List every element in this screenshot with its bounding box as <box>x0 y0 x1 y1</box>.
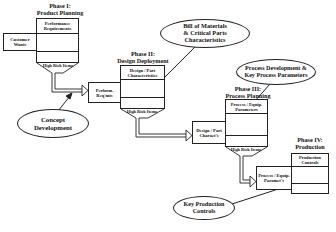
callout-bom-line3: Characteristics <box>183 37 227 44</box>
phase-4-matrix: Production Controls <box>291 153 329 194</box>
phase-3-matrix-footer <box>226 135 267 146</box>
callout-process-line2: Key Process Parameters <box>244 72 307 79</box>
phase-1-matrix: Performance Requirements <box>36 18 79 63</box>
phase-1-matrix-footer <box>37 51 78 62</box>
callout-key-production-controls: Key Production Controls <box>173 196 235 220</box>
phase-4-matrix-footer <box>292 183 328 193</box>
phase-1-matrix-header: Performance Requirements <box>37 19 78 34</box>
callout-concept-development: Concept Development <box>17 109 89 138</box>
phase-3-title: Phase III: Process Planning <box>218 86 278 99</box>
callout-keyprod-line1: Key Production <box>183 201 224 208</box>
phase-2-matrix-footer <box>121 97 164 108</box>
phase-4-side-input: Process / Equip. Paramet's <box>256 166 292 190</box>
phase-2-side-input: Perform. Req'mts <box>88 82 121 103</box>
phase-1-output-label: High Risk Items <box>42 64 74 69</box>
phase-3-matrix-header: Process / Equip. Parameters <box>226 100 267 114</box>
callout-process-line1: Process Development & <box>244 65 307 72</box>
phase-3-matrix: Process / Equip. Parameters <box>225 99 268 147</box>
phase-4-matrix-header: Production Controls <box>292 154 328 167</box>
phase-1-side-input: Customer Wants <box>3 33 37 51</box>
phase-4-title: Phase IV: Production <box>286 137 334 150</box>
callout-concept-line1: Concept <box>34 116 72 123</box>
phase-4-name: Production <box>286 144 334 151</box>
phase-2-title: Phase II: Design Deployment <box>112 51 174 64</box>
phase-2-output-label: High Risk Items <box>126 110 158 115</box>
callout-process-development: Process Development & Key Process Parame… <box>236 59 316 85</box>
callout-keyprod-line2: Controls <box>183 208 224 215</box>
phase-2-name: Design Deployment <box>112 58 174 65</box>
callout-concept-line2: Development <box>34 124 72 131</box>
phase-1-name: Product Planning <box>30 10 90 17</box>
phase-1-title: Phase I: Product Planning <box>30 3 90 16</box>
phase-2-matrix: Design / Part Characteristics <box>120 65 165 109</box>
phase-2-matrix-header: Design / Part Characteristics <box>121 66 164 80</box>
phase-3-output-label: High Risk Items <box>230 148 262 153</box>
callout-bill-of-materials: Bill of Materials & Critical Parts Chara… <box>160 19 250 48</box>
phase-3-side-input: Design / Part Charact's <box>192 121 226 144</box>
